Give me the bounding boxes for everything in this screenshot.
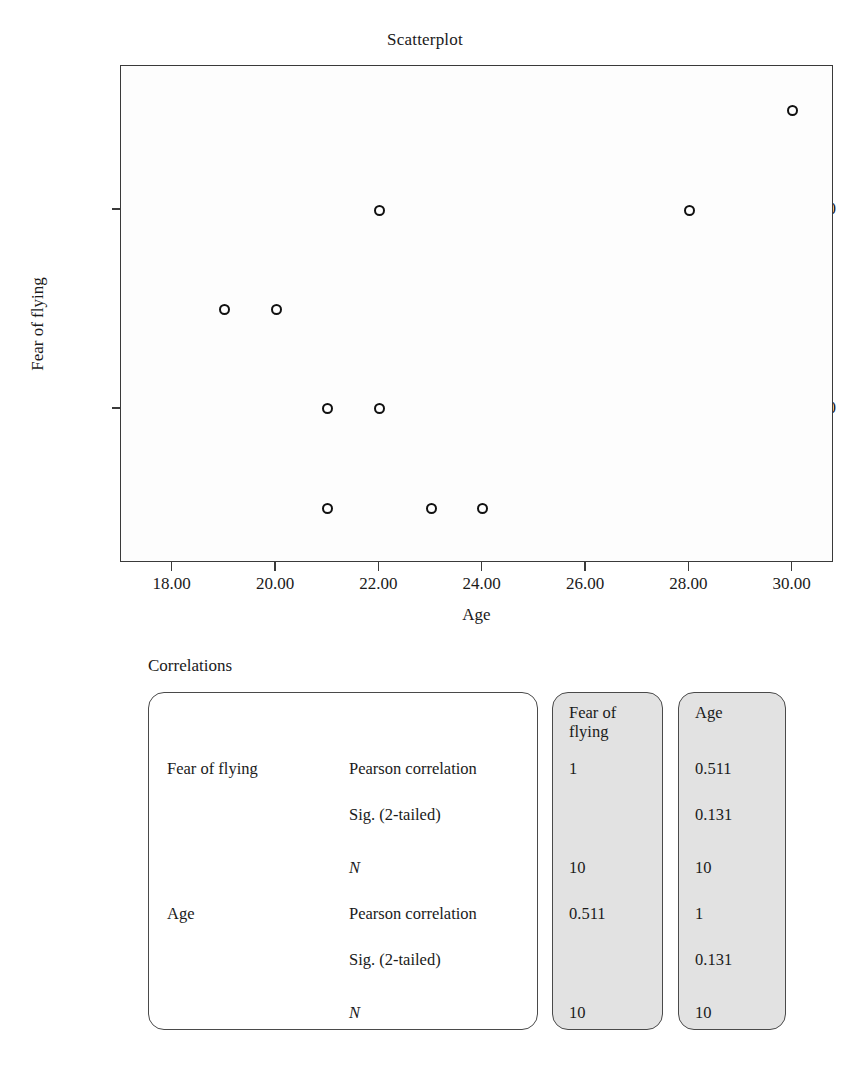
x-tick-mark: [171, 562, 172, 571]
table-cell: 1: [569, 759, 577, 779]
x-tick-label: 18.00: [117, 574, 227, 594]
x-tick-mark: [481, 562, 482, 571]
table-cell: 10: [695, 858, 712, 878]
plot-area: [120, 65, 833, 562]
data-point: [374, 205, 385, 216]
x-tick-label: 28.00: [633, 574, 743, 594]
data-point: [322, 503, 333, 514]
table-cell: 10: [569, 1003, 586, 1023]
row-statistic-label: Sig. (2-tailed): [349, 805, 441, 825]
data-point: [477, 503, 488, 514]
column-header: Age: [695, 703, 779, 722]
data-point: [684, 205, 695, 216]
table-cell: 0.511: [569, 904, 606, 924]
table-cell: 0.511: [695, 759, 732, 779]
table-cell: 0.131: [695, 805, 732, 825]
scatterplot-figure: Scatterplot Fear of flying 4.002.00 18.0…: [0, 0, 850, 640]
row-statistic-label: Pearson correlation: [349, 759, 477, 779]
row-statistic-label: Sig. (2-tailed): [349, 950, 441, 970]
x-tick-mark: [584, 562, 585, 571]
data-point: [322, 403, 333, 414]
data-point: [271, 304, 282, 315]
column-header: Fear of flying: [569, 703, 656, 742]
chart-title: Scatterplot: [0, 30, 850, 50]
row-statistic-label: N: [349, 1003, 360, 1023]
x-tick-label: 30.00: [737, 574, 847, 594]
table-labels-panel: Fear of flyingPearson correlationSig. (2…: [148, 692, 538, 1030]
x-tick-mark: [274, 562, 275, 571]
x-tick-mark: [378, 562, 379, 571]
table-cell: 1: [695, 904, 703, 924]
x-tick-label: 24.00: [427, 574, 537, 594]
x-axis-label: Age: [120, 605, 833, 625]
x-tick-label: 20.00: [220, 574, 330, 594]
table-cell: 10: [569, 858, 586, 878]
row-variable-label: Fear of flying: [167, 759, 258, 779]
data-point: [374, 403, 385, 414]
row-variable-label: Age: [167, 904, 195, 924]
row-statistic-label: Pearson correlation: [349, 904, 477, 924]
correlations-table: Correlations Fear of flyingPearson corre…: [0, 640, 850, 1082]
data-point: [787, 105, 798, 116]
table-cell: 0.131: [695, 950, 732, 970]
table-caption: Correlations: [148, 656, 232, 676]
table-cell: 10: [695, 1003, 712, 1023]
x-tick-mark: [688, 562, 689, 571]
table-column-fear-of-flying: Fear of flying 1100.51110: [552, 692, 663, 1030]
x-tick-mark: [791, 562, 792, 571]
x-tick-label: 26.00: [530, 574, 640, 594]
data-point: [219, 304, 230, 315]
data-point: [426, 503, 437, 514]
y-axis-label: Fear of flying: [28, 224, 48, 424]
row-statistic-label: N: [349, 858, 360, 878]
table-column-age: Age 0.5110.1311010.13110: [678, 692, 786, 1030]
x-tick-label: 22.00: [323, 574, 433, 594]
